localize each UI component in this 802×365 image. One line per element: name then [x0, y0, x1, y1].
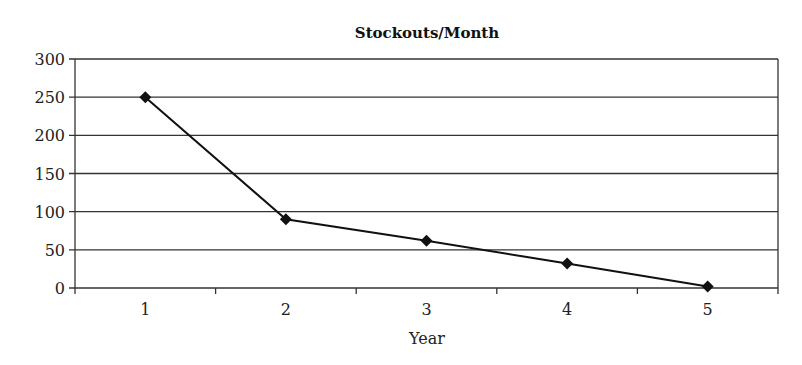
series-layer — [139, 91, 713, 292]
x-tick-label: 5 — [703, 300, 713, 319]
y-tick-label: 0 — [55, 279, 65, 298]
y-tick-labels: 050100150200250300 — [34, 50, 65, 298]
line-chart: Stockouts/Month 050100150200250300 12345… — [0, 0, 802, 365]
x-tick-labels: 12345 — [140, 300, 713, 319]
y-tick-label: 300 — [34, 50, 65, 69]
data-point-marker — [561, 258, 573, 270]
axes — [75, 59, 778, 294]
y-tick-label: 150 — [34, 165, 65, 184]
y-tick-label: 50 — [45, 241, 65, 260]
x-tick-label: 4 — [562, 300, 572, 319]
chart-title: Stockouts/Month — [355, 24, 499, 42]
y-tick-label: 250 — [34, 88, 65, 107]
gridlines — [69, 59, 778, 288]
x-tick-label: 2 — [281, 300, 291, 319]
data-point-marker — [421, 235, 433, 247]
y-tick-label: 200 — [34, 126, 65, 145]
x-tick-label: 3 — [421, 300, 431, 319]
data-point-marker — [702, 280, 714, 292]
x-axis-label: Year — [408, 329, 445, 348]
y-tick-label: 100 — [34, 203, 65, 222]
x-tick-label: 1 — [140, 300, 150, 319]
series-line — [145, 97, 707, 286]
